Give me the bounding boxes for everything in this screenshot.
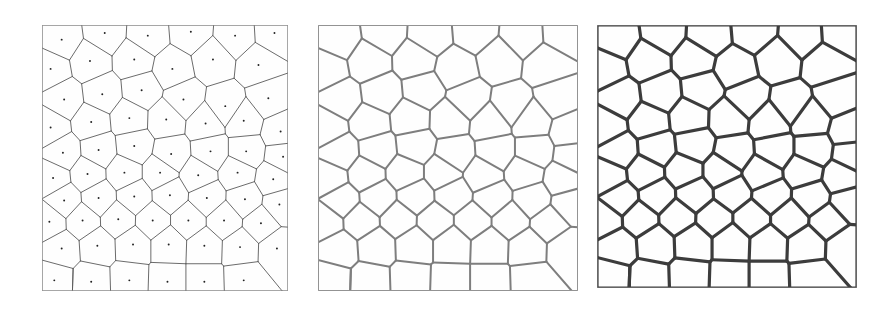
seed-point <box>171 68 173 70</box>
voronoi-edge <box>709 262 710 288</box>
seed-point <box>132 243 134 245</box>
voronoi-edge <box>629 266 630 288</box>
voronoi-edge <box>542 25 543 42</box>
voronoi-edge <box>350 268 351 291</box>
voronoi-edge <box>510 266 511 291</box>
seed-point <box>260 222 262 224</box>
voronoi-edge <box>470 240 471 263</box>
voronoi-edge <box>674 134 676 152</box>
voronoi-edge <box>686 25 687 38</box>
seed-point <box>53 279 55 281</box>
seed-point <box>187 220 189 222</box>
seed-point <box>96 245 98 247</box>
voronoi-edge <box>550 196 551 205</box>
seed-point <box>117 218 119 220</box>
seed-point <box>273 32 275 34</box>
voronoi-edge <box>429 111 430 129</box>
voronoi-edge <box>680 79 682 97</box>
seed-point <box>61 247 63 249</box>
seed-point <box>133 59 135 61</box>
voronoi-edge <box>669 264 670 288</box>
voronoi-edge <box>748 120 749 133</box>
panel-middle-canvas <box>318 25 578 291</box>
voronoi-edge <box>822 167 824 180</box>
panel-left <box>42 25 288 291</box>
seed-point <box>206 197 208 199</box>
seed-point <box>258 64 260 66</box>
seed-point <box>63 99 65 101</box>
voronoi-edge <box>347 171 348 183</box>
panel-right-canvas <box>597 25 857 288</box>
seed-point <box>90 281 92 283</box>
voronoi-edge <box>731 25 733 43</box>
seed-point <box>243 279 245 281</box>
voronoi-figure <box>0 0 891 309</box>
seed-point <box>123 172 125 174</box>
seed-point <box>203 245 205 247</box>
seed-point <box>203 281 205 283</box>
seed-point <box>239 246 241 248</box>
voronoi-edge <box>359 192 360 201</box>
voronoi-edge <box>636 238 637 258</box>
voronoi-edge <box>639 25 641 38</box>
seed-point <box>280 130 282 132</box>
voronoi-edge <box>469 121 470 134</box>
seed-point <box>61 39 63 41</box>
seed-point <box>210 150 212 152</box>
voronoi-edge <box>800 60 802 78</box>
seed-point <box>234 35 236 37</box>
seed-point <box>278 204 280 206</box>
voronoi-edge <box>147 111 148 129</box>
seed-point <box>223 220 225 222</box>
voronoi-edge <box>769 86 771 100</box>
voronoi-edge <box>825 241 826 259</box>
panel-right <box>597 25 857 288</box>
panel-left-canvas <box>42 25 288 291</box>
seed-point <box>272 178 274 180</box>
voronoi-edge <box>754 140 755 154</box>
seed-point <box>62 152 64 154</box>
seed-point <box>48 221 50 223</box>
panel-middle <box>318 25 578 291</box>
voronoi-edge <box>508 241 509 264</box>
seed-point <box>243 120 245 122</box>
seed-point <box>197 174 199 176</box>
seed-point <box>182 99 184 101</box>
voronoi-edge <box>789 263 790 288</box>
seed-point <box>63 200 65 202</box>
voronoi-edge <box>433 262 470 263</box>
voronoi-edge <box>749 238 750 261</box>
seed-point <box>98 149 100 151</box>
voronoi-edge <box>430 265 431 291</box>
voronoi-edge <box>499 25 500 35</box>
seed-point <box>90 121 92 123</box>
voronoi-edge <box>258 243 259 261</box>
voronoi-edge <box>532 88 533 97</box>
seed-point <box>133 145 135 147</box>
voronoi-edge <box>674 237 675 258</box>
seed-point <box>282 156 284 158</box>
seed-point <box>170 153 172 155</box>
seed-point <box>82 220 84 222</box>
seed-point <box>98 197 100 199</box>
voronoi-edge <box>395 239 396 260</box>
seed-point <box>245 150 247 152</box>
seed-point <box>190 31 192 33</box>
voronoi-edge <box>475 141 476 155</box>
voronoi-edge <box>348 121 349 132</box>
seed-point <box>152 220 154 222</box>
voronoi-edge <box>787 238 788 261</box>
seed-point <box>212 59 214 61</box>
voronoi-edge <box>831 145 833 160</box>
seed-point <box>267 97 269 99</box>
voronoi-edge <box>546 243 547 261</box>
seed-point <box>128 117 130 119</box>
seed-point <box>168 243 170 245</box>
voronoi-edge <box>669 113 671 130</box>
voronoi-edge <box>708 110 709 128</box>
seed-point <box>89 60 91 62</box>
seed-point <box>159 172 161 174</box>
seed-point <box>166 281 168 283</box>
seed-point <box>50 68 52 70</box>
seed-point <box>128 279 130 281</box>
